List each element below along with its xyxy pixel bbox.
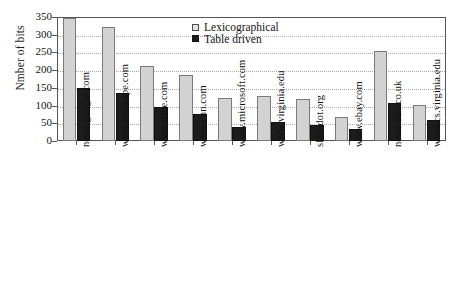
bar <box>102 27 116 141</box>
bar <box>296 99 310 141</box>
bar <box>257 96 271 141</box>
y-tick-label: 50 <box>12 117 52 128</box>
bar <box>179 75 193 141</box>
y-tick-label: 100 <box>12 100 52 111</box>
y-tick-label: 150 <box>12 82 52 93</box>
bar <box>374 51 388 141</box>
chart-legend: LexicographicalTable driven <box>192 22 279 45</box>
x-tick-mark <box>193 141 194 145</box>
x-tick-label: slashdot.org <box>314 95 325 147</box>
y-axis-title: Nmber of bits <box>14 8 26 108</box>
legend-label: Lexicographical <box>204 22 279 33</box>
x-tick-mark <box>232 141 233 145</box>
y-tick-label: 350 <box>12 11 52 22</box>
bar <box>63 18 77 141</box>
legend-item: Table driven <box>192 34 279 45</box>
y-tick-label: 200 <box>12 64 52 75</box>
legend-label: Table driven <box>204 34 262 45</box>
bar-chart: Nmber of bits 350300250200150100500 Lexi… <box>0 0 463 284</box>
x-axis-labels: news.google.comwww.netscape.comwww.time.… <box>57 141 446 284</box>
x-tick-label: www.netscape.com <box>119 64 130 147</box>
y-tick-label: 250 <box>12 46 52 57</box>
x-tick-label: www.cnn.com <box>197 85 208 147</box>
y-tick-label: 0 <box>12 135 52 146</box>
bar <box>140 66 154 141</box>
x-tick-mark <box>271 141 272 145</box>
legend-item: Lexicographical <box>192 22 279 33</box>
x-tick-label: news.google.com <box>80 72 91 147</box>
x-tick-label: news.bbc.co.uk <box>392 81 403 147</box>
x-tick-label: www.ebay.com <box>353 81 364 147</box>
x-tick-label: www.virginia.edu <box>275 70 286 147</box>
x-tick-label: www.time.com <box>158 82 169 147</box>
x-tick-label: www.microsoft.com <box>236 60 247 147</box>
x-tick-mark <box>76 141 77 145</box>
x-tick-mark <box>154 141 155 145</box>
bar <box>335 117 349 141</box>
x-tick-mark <box>388 141 389 145</box>
y-tick-label: 300 <box>12 29 52 40</box>
x-tick-label: www.cs.virginia.edu <box>431 59 442 147</box>
bar <box>413 105 427 141</box>
bar <box>218 98 232 141</box>
x-tick-mark <box>310 141 311 145</box>
light-square-swatch <box>192 24 199 31</box>
x-tick-mark <box>349 141 350 145</box>
dark-square-swatch <box>192 35 199 42</box>
x-tick-mark <box>115 141 116 145</box>
x-tick-mark <box>427 141 428 145</box>
